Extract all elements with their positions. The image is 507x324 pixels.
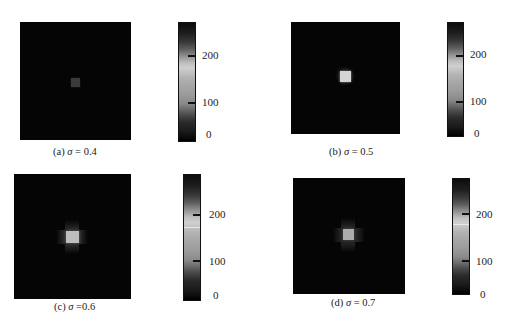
tick-label-b-100: 100	[470, 96, 487, 107]
tick-label-b-0: 0	[474, 128, 480, 139]
tick-label-a-0: 0	[206, 129, 212, 140]
colorbar-b	[447, 22, 464, 137]
central-spot-d	[343, 229, 354, 240]
tick-label-b-200: 200	[470, 49, 487, 60]
colorbar-c	[183, 174, 201, 301]
colorbar-tick-b-100	[456, 101, 463, 103]
colorbar-a	[178, 22, 196, 142]
heatmap-image-a	[20, 22, 131, 140]
colorbar-tick-a-100	[188, 102, 195, 104]
caption-c: (c) σ =0.6	[54, 301, 95, 312]
colorbar-tick-c-100	[193, 260, 200, 262]
colorbar-tick-c-200	[193, 214, 200, 216]
central-spot-c	[66, 231, 79, 243]
tick-label-d-100: 100	[476, 256, 493, 267]
colorbar-tick-b-200	[456, 55, 463, 57]
heatmap-image-c	[14, 174, 131, 299]
colorbar-tick-a-200	[188, 55, 195, 57]
heatmap-image-b	[291, 22, 400, 134]
tick-label-c-100: 100	[209, 256, 226, 267]
colorbar-tick-d-100	[462, 260, 469, 262]
tick-label-d-0: 0	[480, 289, 486, 300]
tick-label-c-200: 200	[209, 209, 226, 220]
tick-label-a-200: 200	[202, 50, 219, 61]
heatmap-image-d	[293, 178, 405, 294]
colorbar-tick-d-200	[462, 213, 469, 215]
colorbar-d	[452, 178, 470, 295]
caption-a: (a) σ = 0.4	[53, 146, 97, 157]
tick-label-c-0: 0	[213, 290, 219, 301]
central-spot-b	[340, 71, 351, 82]
central-spot-a	[71, 78, 80, 87]
tick-label-d-200: 200	[476, 209, 493, 220]
caption-d: (d) σ = 0.7	[331, 297, 375, 308]
tick-label-a-100: 100	[202, 97, 219, 108]
caption-b: (b) σ = 0.5	[329, 146, 373, 157]
